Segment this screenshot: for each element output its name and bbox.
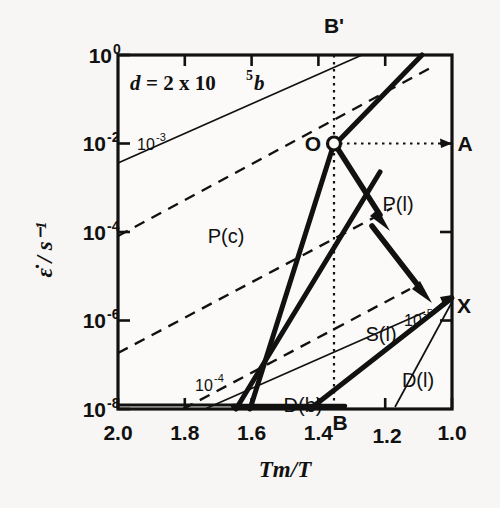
region-label-Dl: D(l) bbox=[402, 369, 434, 391]
region-label-Sl: S(l) bbox=[365, 323, 396, 345]
point-label-B: B bbox=[332, 411, 347, 434]
y-tick-1-exp: -2 bbox=[107, 129, 120, 145]
x-tick-5: 1.0 bbox=[437, 421, 466, 444]
region-label-Pl: P(l) bbox=[382, 193, 413, 215]
contour-exp-10-4: -4 bbox=[214, 372, 224, 384]
point-label-X: X bbox=[457, 294, 471, 317]
y-tick-3-exp: -6 bbox=[107, 306, 120, 322]
region-label-Db: D(b) bbox=[284, 394, 323, 416]
y-axis-title: ε̇ / s⁻¹ bbox=[32, 222, 57, 277]
x-tick-2: 1.6 bbox=[237, 421, 266, 444]
y-tick-4-mantissa: 10 bbox=[83, 398, 106, 421]
x-tick-1: 1.8 bbox=[170, 421, 200, 444]
contour-label-10-5: 10 bbox=[404, 312, 422, 329]
point-label-B-prime: B' bbox=[324, 14, 344, 37]
y-tick-2-mantissa: 10 bbox=[83, 221, 106, 244]
annotation-variable: d bbox=[130, 71, 141, 95]
contour-exp-10-3: -3 bbox=[156, 131, 166, 143]
x-axis-title: Tm/T bbox=[259, 457, 312, 482]
y-tick-2-exp: -4 bbox=[107, 218, 120, 234]
point-label-O: O bbox=[305, 132, 321, 155]
x-tick-0: 2.0 bbox=[103, 421, 132, 444]
deformation-mechanism-map-figure: 10 0 10 -2 10 -4 10 -6 10 -8 2.0 1.8 1.6… bbox=[0, 0, 500, 508]
y-tick-0-exp: 0 bbox=[113, 41, 121, 57]
y-tick-1-mantissa: 10 bbox=[83, 132, 106, 155]
annotation-unit: b bbox=[254, 71, 265, 95]
point-marker-O[interactable] bbox=[328, 137, 341, 150]
contour-label-10-4: 10 bbox=[195, 377, 213, 394]
annotation-equation: = 2 x 10 bbox=[146, 71, 216, 95]
y-tick-3-mantissa: 10 bbox=[83, 309, 106, 332]
x-tick-3: 1.4 bbox=[304, 421, 334, 444]
region-label-Pc: P(c) bbox=[208, 225, 245, 247]
contour-label-10-3: 10 bbox=[137, 136, 155, 153]
y-tick-4-exp: -8 bbox=[107, 395, 120, 411]
annotation-exponent: 5 bbox=[246, 68, 253, 83]
y-axis-title-text: ε̇ / s⁻¹ bbox=[32, 222, 57, 277]
chart-svg: 10 0 10 -2 10 -4 10 -6 10 -8 2.0 1.8 1.6… bbox=[0, 0, 500, 508]
y-tick-0-mantissa: 10 bbox=[89, 44, 112, 67]
contour-exp-10-5: -5 bbox=[423, 307, 433, 319]
point-label-A: A bbox=[457, 132, 472, 155]
x-tick-4: 1.2 bbox=[372, 424, 401, 447]
